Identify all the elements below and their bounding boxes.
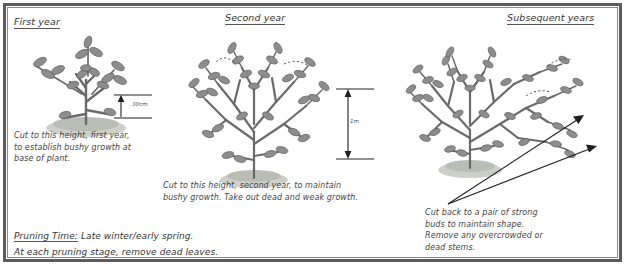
caption-subsequent-years: Cut back to a pair of strong buds to mai… [425, 207, 543, 253]
pruning-note-line2: At each pruning stage, remove dead leave… [14, 247, 218, 257]
illustration-first-year-plant [18, 22, 178, 142]
heading-second-year: Second year [225, 12, 285, 25]
illustration-second-year-plant [176, 28, 351, 168]
measure-label-second-year: 1m [350, 118, 359, 124]
pruning-time-value: Late winter/early spring. [78, 231, 194, 241]
pruning-diagram-sheet: First year [0, 0, 625, 265]
measure-arrow-first-year [112, 92, 158, 122]
measure-arrow-second-year [330, 86, 378, 162]
measure-label-first-year: 30cm [132, 101, 148, 107]
pointer-arrows-subsequent-years [440, 100, 600, 210]
caption-first-year: Cut to this height, first year, to estab… [14, 130, 131, 165]
pruning-time-note: Pruning Time: Late winter/early spring. … [14, 224, 218, 257]
caption-second-year: Cut to this height, second year, to main… [163, 180, 358, 203]
pruning-time-label: Pruning Time: [14, 231, 78, 242]
heading-subsequent-years: Subsequent years [507, 12, 594, 25]
